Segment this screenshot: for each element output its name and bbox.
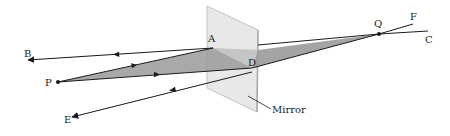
label-D: D [248,57,256,68]
label-C: C [425,34,433,45]
label-A: A [207,33,216,44]
point-P [56,80,60,84]
arrow-A-B-mid [113,52,119,57]
point-Q [377,32,381,36]
label-F: F [410,11,417,22]
label-B: B [24,48,31,59]
label-P: P [45,77,52,88]
arrow-D-E-mid [169,87,176,92]
label-Q: Q [374,18,382,29]
label-E: E [64,114,71,125]
label-mirror: Mirror [272,104,306,115]
mirror-reflection-diagram: A D P Q F C B E Mirror [0,0,450,136]
mirror-edge [257,30,258,112]
